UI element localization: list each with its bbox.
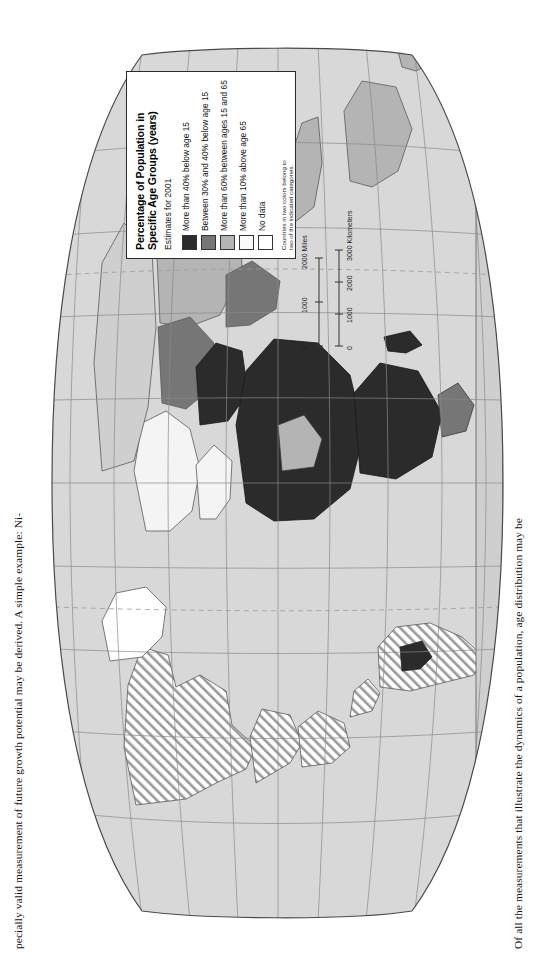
- legend-swatch-dark: [182, 235, 197, 250]
- scale-miles-unit: 2000 Miles: [301, 235, 308, 269]
- body-text-top-line: pecially valid measurement of future gro…: [12, 513, 24, 949]
- legend-items-list: More than 40% below age 15 Between 30% a…: [182, 80, 277, 250]
- legend-title-line1: Percentage of Population in: [134, 80, 146, 250]
- rotated-page-stage: pecially valid measurement of future gro…: [0, 0, 534, 971]
- legend-item-2[interactable]: More than 60% between ages 15 and 65: [220, 80, 235, 250]
- legend-item-4[interactable]: No data: [258, 80, 273, 250]
- legend-subtitle: Estimates for 2001: [163, 80, 173, 250]
- page-canvas: pecially valid measurement of future gro…: [0, 0, 534, 971]
- scale-km-tick-2: 2000: [346, 275, 353, 291]
- legend-swatch-light: [220, 235, 235, 250]
- scale-km-unit: 3000 Kilometers: [346, 210, 353, 261]
- legend-label-2: More than 60% between ages 15 and 65: [220, 80, 230, 231]
- legend-item-1[interactable]: Between 30% and 40% below age 15: [201, 80, 216, 250]
- legend-swatch-white: [239, 235, 254, 250]
- scale-miles-tick-0: 0: [301, 346, 308, 350]
- scale-miles-tick-1: 1000: [301, 297, 308, 313]
- legend-item-3[interactable]: More than 10% above age 65: [239, 80, 254, 250]
- scale-km-tick-0: 0: [346, 346, 353, 350]
- legend-swatch-nodata: [258, 235, 273, 250]
- legend-footnote: Countries in two colors belong to two of…: [280, 154, 294, 250]
- legend-label-0: More than 40% below age 15: [182, 122, 192, 231]
- legend-label-4: No data: [258, 202, 268, 231]
- legend-item-0[interactable]: More than 40% below age 15: [182, 80, 197, 250]
- world-map-panel: 0 1000 2000 Miles 0 1000 2000 3000 Kilom…: [44, 0, 534, 971]
- map-legend: Percentage of Population in Specific Age…: [126, 71, 296, 259]
- scale-km-tick-1: 1000: [346, 307, 353, 323]
- legend-swatch-mid: [201, 235, 216, 250]
- legend-title: Percentage of Population in Specific Age…: [134, 80, 159, 250]
- legend-title-line2: Specific Age Groups (years): [146, 80, 158, 250]
- legend-label-3: More than 10% above age 65: [239, 121, 249, 231]
- legend-label-1: Between 30% and 40% below age 15: [201, 92, 211, 231]
- map-scale-bar: 0 1000 2000 Miles 0 1000 2000 3000 Kilom…: [299, 234, 361, 354]
